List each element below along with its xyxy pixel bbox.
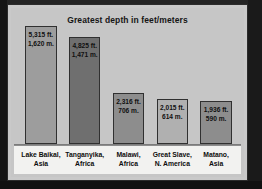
category-label-line2: Africa <box>63 160 107 169</box>
category-label-4: Great Slave,N. America <box>150 151 194 168</box>
category-label-line2: Asia <box>194 160 238 169</box>
bar-4: 2,015 ft.614 m. <box>157 99 189 144</box>
bar-value-feet: 1,936 ft. <box>201 105 231 114</box>
category-label-5: Matano,Asia <box>194 151 238 168</box>
bar-value-meters: 614 m. <box>158 112 188 121</box>
category-label-line1: Matano, <box>194 151 238 160</box>
bar-value-label: 4,825 ft.1,471 m. <box>70 41 100 59</box>
chart-title: Greatest depth in feet/meters <box>11 15 244 25</box>
category-label-line2: Asia <box>19 160 63 169</box>
bar-value-meters: 706 m. <box>114 106 144 115</box>
bar-rect: 4,825 ft.1,471 m. <box>69 37 101 144</box>
category-label-line1: Great Slave, <box>150 151 194 160</box>
category-label-line1: Malawi, <box>107 151 151 160</box>
category-label-line2: Africa <box>107 160 151 169</box>
plot-area: Greatest depth in feet/meters 5,315 ft.1… <box>11 8 244 177</box>
screenshot-root: Greatest depth in feet/meters 5,315 ft.1… <box>0 0 262 189</box>
bar-value-label: 1,936 ft.590 m. <box>201 105 231 123</box>
bar-value-label: 2,015 ft.614 m. <box>158 103 188 121</box>
bar-value-feet: 5,315 ft. <box>26 30 56 39</box>
bar-rect: 2,015 ft.614 m. <box>157 99 189 144</box>
bar-value-meters: 1,471 m. <box>70 50 100 59</box>
bar-rect: 1,936 ft.590 m. <box>200 101 232 144</box>
bar-value-feet: 2,015 ft. <box>158 103 188 112</box>
page-edge-right <box>248 0 262 189</box>
category-label-line1: Lake Baikal, <box>19 151 63 160</box>
bar-2: 4,825 ft.1,471 m. <box>69 37 101 144</box>
bar-value-label: 5,315 ft.1,620 m. <box>26 30 56 48</box>
page-edge-left <box>0 0 7 189</box>
category-label-line1: Tanganyika, <box>63 151 107 160</box>
bar-value-feet: 4,825 ft. <box>70 41 100 50</box>
bar-value-meters: 590 m. <box>201 114 231 123</box>
category-label-1: Lake Baikal,Asia <box>19 151 63 168</box>
bar-1: 5,315 ft.1,620 m. <box>25 26 57 144</box>
category-label-3: Malawi,Africa <box>107 151 151 168</box>
bar-3: 2,316 ft.706 m. <box>113 93 145 144</box>
bar-rect: 2,316 ft.706 m. <box>113 93 145 144</box>
page-edge-bottom <box>0 181 262 189</box>
bar-series: 5,315 ft.1,620 m.4,825 ft.1,471 m.2,316 … <box>19 26 238 144</box>
bar-value-feet: 2,316 ft. <box>114 97 144 106</box>
bar-value-label: 2,316 ft.706 m. <box>114 97 144 115</box>
bar-5: 1,936 ft.590 m. <box>200 101 232 144</box>
chart-figure: Greatest depth in feet/meters 5,315 ft.1… <box>7 4 248 181</box>
category-axis-labels: Lake Baikal,AsiaTanganyika,AfricaMalawi,… <box>14 145 241 174</box>
category-label-line2: N. America <box>150 160 194 169</box>
bar-value-meters: 1,620 m. <box>26 39 56 48</box>
bar-rect: 5,315 ft.1,620 m. <box>25 26 57 144</box>
category-label-2: Tanganyika,Africa <box>63 151 107 168</box>
